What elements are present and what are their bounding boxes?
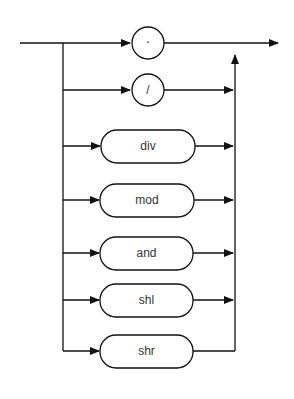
slash-label: / (132, 83, 164, 97)
and-label: and (100, 246, 193, 260)
dot-label: · (132, 34, 164, 48)
shr-label: shr (100, 344, 193, 358)
div-label: div (101, 139, 195, 153)
shl-label: shl (100, 293, 193, 307)
mod-label: mod (100, 193, 194, 207)
